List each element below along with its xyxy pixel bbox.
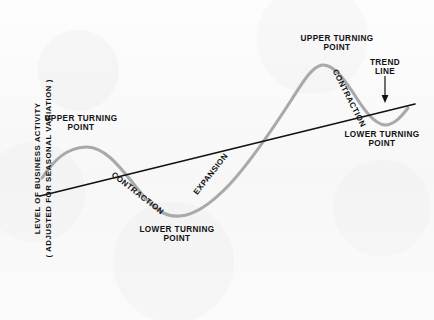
label-trend-line: TREND LINE [358, 59, 412, 77]
label-upper-turning-point-right: UPPER TURNING POINT [285, 35, 389, 53]
label-upper-turning-point-left: UPPER TURNING POINT [33, 115, 129, 133]
trend-line-pointer-arrow [382, 76, 389, 103]
label-lower-turning-point-right: LOWER TURNING POINT [330, 131, 434, 149]
y-axis-caption-line2: ( ADJUSTED FOR SEASONAL VARIATION ) [43, 68, 54, 268]
business-cycle-figure: LEVEL OF BUSINESS ACTIVITY ( ADJUSTED FO… [0, 0, 434, 320]
y-axis-caption-line1: LEVEL OF BUSINESS ACTIVITY [32, 68, 43, 268]
label-lower-turning-point-left: LOWER TURNING POINT [125, 226, 229, 244]
y-axis-caption: LEVEL OF BUSINESS ACTIVITY ( ADJUSTED FO… [32, 68, 55, 268]
